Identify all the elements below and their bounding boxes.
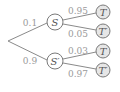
node-t-prime-top-label: T′ [99, 26, 109, 37]
prob-s-prime: 0.9 [23, 56, 38, 66]
node-s-prime: S′ [47, 53, 63, 69]
node-t-prime-bottom-label: T′ [99, 65, 109, 76]
prob-t-given-s-prime: 0.03 [68, 46, 88, 56]
node-s-prime-label: S′ [50, 56, 60, 67]
level1-nodes: S S′ [47, 14, 63, 69]
node-s-label: S [52, 17, 59, 28]
node-t-top: T [96, 5, 110, 19]
prob-t-prime-given-s-prime: 0.97 [68, 69, 88, 79]
prob-s: 0.1 [23, 18, 37, 28]
level2-nodes: T T′ T T′ [96, 5, 110, 77]
prob-t-given-s: 0.95 [68, 6, 88, 16]
node-s: S [47, 14, 63, 30]
prob-t-prime-given-s: 0.05 [68, 29, 88, 39]
node-t-prime-top: T′ [96, 24, 110, 38]
node-t-bottom: T [96, 44, 110, 58]
node-t-prime-bottom: T′ [96, 63, 110, 77]
probability-tree: 0.1 0.9 0.95 0.05 0.03 0.97 S S′ T T′ T [0, 0, 120, 92]
